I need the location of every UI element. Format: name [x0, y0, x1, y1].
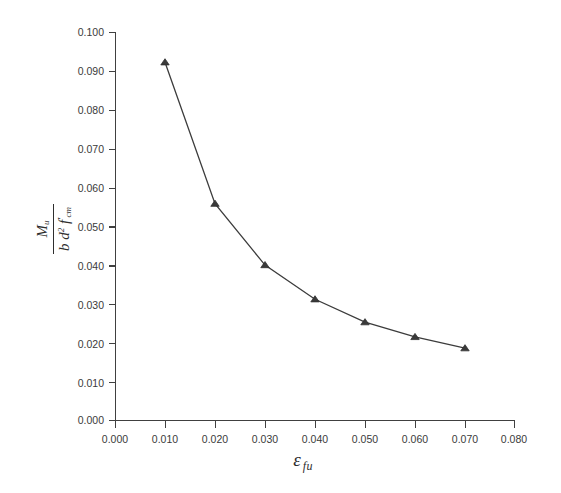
y-den-f: f — [56, 220, 72, 224]
y-den-f-prime: ′ — [55, 217, 67, 219]
y-tick-label: 0.090 — [78, 65, 104, 77]
y-tick-label: 0.070 — [78, 143, 104, 155]
x-axis-tick-labels: 0.000 0.010 0.020 0.030 0.040 0.050 0.06… — [102, 433, 527, 445]
x-tick-label: 0.030 — [252, 433, 278, 445]
y-tick-label: 0.100 — [78, 26, 104, 38]
y-den-d-exponent: 2 — [56, 228, 66, 233]
x-axis-title-symbol: ε — [293, 449, 301, 470]
y-axis-title: Mu b d2 f′cm — [11, 189, 97, 269]
y-axis-title-denominator: b d2 f′cm — [55, 204, 73, 254]
chart-figure: 0.100 0.090 0.080 0.070 0.060 0.050 0.04… — [0, 0, 561, 493]
y-numerator-subscript: u — [41, 221, 51, 226]
x-tick-label: 0.010 — [152, 433, 178, 445]
y-den-d: d — [56, 232, 72, 240]
fraction-bar — [53, 204, 54, 254]
y-axis-title-numerator: Mu — [35, 204, 52, 254]
x-axis-title: εfu — [248, 449, 358, 474]
y-tick-label: 0.000 — [78, 414, 104, 426]
y-tick-label: 0.020 — [78, 338, 104, 350]
x-tick-label: 0.070 — [452, 433, 478, 445]
x-tick-label: 0.040 — [302, 433, 328, 445]
x-tick-label: 0.050 — [352, 433, 378, 445]
x-axis-title-subscript: fu — [301, 459, 313, 473]
y-tick-label: 0.030 — [78, 299, 104, 311]
y-tick-label: 0.080 — [78, 104, 104, 116]
y-axis-title-fraction: Mu b d2 f′cm — [35, 204, 74, 254]
x-tick-label: 0.080 — [501, 433, 527, 445]
x-tick-label: 0.060 — [402, 433, 428, 445]
y-numerator-symbol: M — [34, 225, 50, 238]
x-tick-label: 0.000 — [102, 433, 128, 445]
x-tick-label: 0.020 — [202, 433, 228, 445]
y-den-b: b — [56, 244, 72, 252]
y-den-f-subscript: cm — [63, 207, 73, 218]
y-tick-label: 0.010 — [78, 377, 104, 389]
